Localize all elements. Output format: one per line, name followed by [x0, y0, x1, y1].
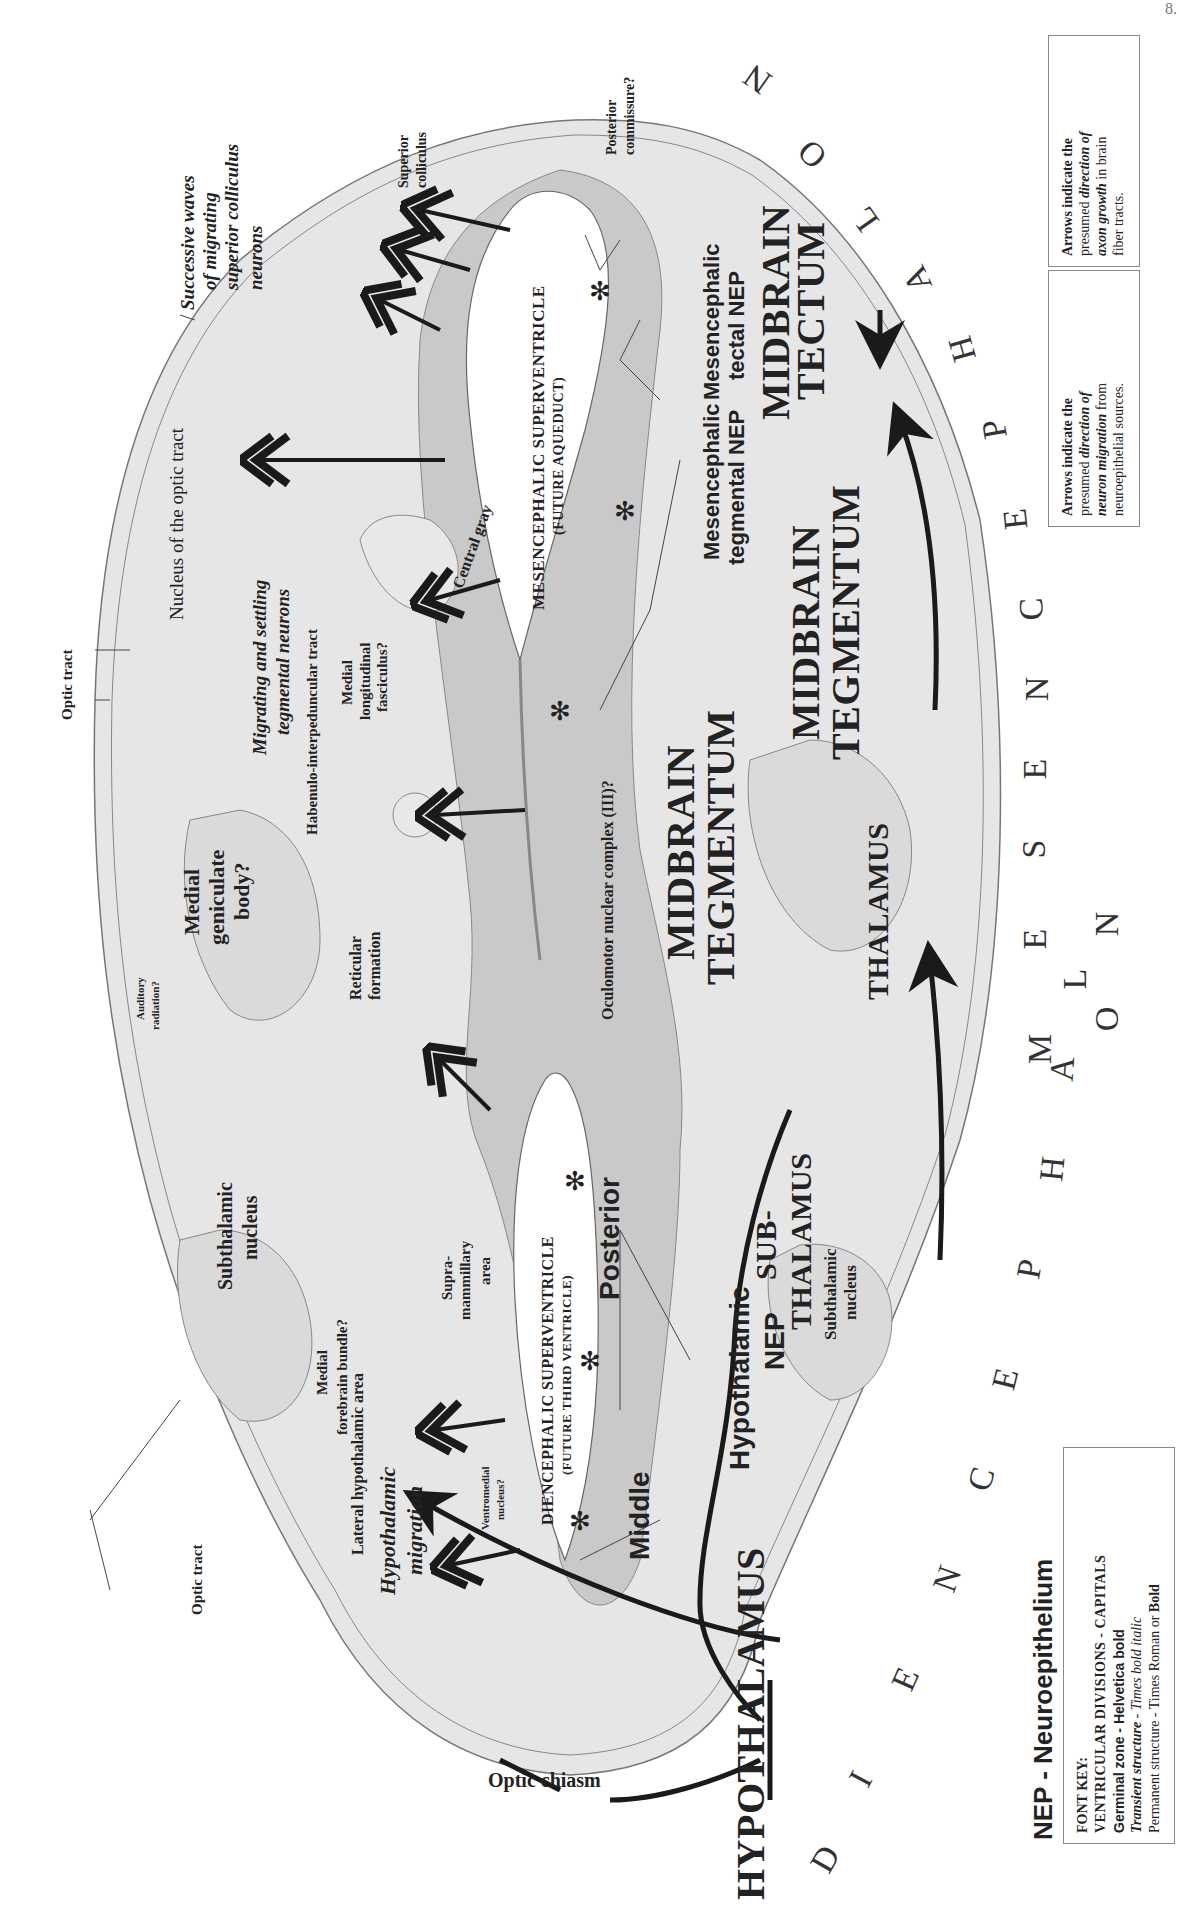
svg-text:✻: ✻: [569, 1507, 591, 1536]
label-sc-waves-1: Successive waves: [178, 175, 198, 310]
label-auditory-2: radiation?: [150, 981, 162, 1030]
label-supramammillary-3: area: [478, 1257, 494, 1285]
svg-text:✻: ✻: [564, 1167, 586, 1196]
label-optic-chiasm: Optic chiasm: [488, 1770, 601, 1791]
label-mfb-1: Medial: [315, 1350, 331, 1395]
label-medial-geniculate-2: geniculate: [205, 850, 228, 945]
label-mes-tegmental-nep-2: tegmental NEP: [725, 410, 748, 565]
label-mlf-3: fasciculus?: [375, 642, 391, 712]
label-lateral-hypothalamic-area: Lateral hypothalamic area: [350, 1373, 367, 1555]
brain-section-diagram: 8.: [0, 0, 1179, 1905]
label-sc-waves-3: superior colliculus: [222, 144, 242, 290]
label-posterior-commissure-1: Posterior: [605, 100, 620, 155]
label-mesencephalic-superventricle: MESENCEPHALIC SUPERVENTRICLE: [530, 285, 548, 610]
label-mes-tectal-nep-1: Mesencephalic: [700, 243, 723, 400]
label-midbrain-tectum-2: TECTUM: [790, 221, 832, 400]
label-mlf-1: Medial: [340, 660, 356, 705]
label-midbrain-tegmentum-b1: MIDBRAIN: [785, 525, 827, 740]
svg-text:✻: ✻: [614, 497, 636, 526]
label-reticular-1: Reticular: [348, 936, 365, 1000]
label-migrating-tegmental-2: tegmental neurons: [273, 589, 293, 735]
svg-text:✻: ✻: [589, 277, 611, 306]
label-subthalamic-top-1: Subthalamic: [215, 1182, 236, 1290]
label-midbrain-tegmentum-a1: MIDBRAIN: [660, 745, 702, 960]
label-mes-tectal-nep-2: tectal NEP: [725, 271, 748, 380]
nep-definition: NEP - Neuroepithelium: [1030, 1559, 1057, 1840]
label-superior-colliculus-2: colliculus: [415, 132, 430, 188]
label-supramammillary-2: mammillary: [458, 1241, 474, 1320]
svg-text:✻: ✻: [579, 1347, 601, 1376]
label-migrating-tegmental-1: Migrating and settling: [250, 580, 270, 755]
label-nucleus-optic-tract: Nucleus of the optic tract: [167, 428, 187, 620]
label-mes-tegmental-nep-1: Mesencephalic: [700, 403, 723, 560]
label-mlf-2: longitudinal: [358, 642, 374, 720]
label-oculomotor-complex: Oculomotor nuclear complex (III)?: [600, 780, 617, 1020]
label-auditory-1: Auditory: [135, 977, 147, 1020]
label-subthalamic-bottom-2: nucleus: [842, 1265, 860, 1320]
label-posterior-commissure-2: commissure?: [623, 77, 638, 155]
label-habenulo-interpeduncular: Habenulo-interpeduncular tract: [305, 629, 321, 835]
label-subthalamic-bottom-1: Subthalamic: [822, 1248, 840, 1340]
label-diencephalic-superventricle: DIENCEPHALIC SUPERVENTRICLE: [540, 1236, 557, 1525]
font-key-box: FONT KEY: VENTRICULAR DIVISIONS - CAPITA…: [1063, 1447, 1175, 1844]
label-future-aqueduct: (FUTURE AQUEDUCT): [552, 377, 567, 535]
label-hypothalamic-nep-2: NEP: [760, 1312, 789, 1370]
legend-neuron-migration: Arrows indicate the presumed direction o…: [1048, 270, 1140, 527]
label-future-third-ventricle: (FUTURE THIRD VENTRICLE): [560, 1275, 574, 1475]
label-subthalamic-top-2: nucleus: [240, 1196, 261, 1260]
label-hypothalamic-nep-1: Hypothalamic: [725, 1286, 754, 1470]
label-medial-geniculate-1: Medial: [180, 869, 203, 935]
label-middle-nep: Middle: [625, 1471, 654, 1560]
label-optic-tract-bottom: Optic tract: [190, 1545, 206, 1615]
label-hypothalamus: HYPOTHALAMUS: [730, 1547, 772, 1900]
label-hypothalamic-migration-1: Hypothalamic: [376, 1467, 399, 1595]
label-posterior-nep: Posterior: [595, 1177, 624, 1300]
label-midbrain-tegmentum-a2: TEGMENTUM: [700, 709, 742, 985]
label-superior-colliculus-1: Superior: [397, 135, 412, 188]
label-medial-geniculate-3: body?: [230, 863, 253, 920]
label-optic-tract-top: Optic tract: [60, 650, 76, 720]
label-thalamus: THALAMUS: [862, 823, 894, 1000]
label-sc-waves-2: of migrating: [200, 192, 220, 290]
label-sc-waves-4: neurons: [246, 226, 266, 290]
legend-axon-growth: Arrows indicate the presumed direction o…: [1048, 35, 1140, 267]
label-hypothalamic-migration-2: migration: [403, 1486, 426, 1575]
label-reticular-2: formation: [367, 932, 384, 1000]
label-subthalamus-2: THALAMUS: [785, 1153, 817, 1330]
svg-text:✻: ✻: [549, 697, 571, 726]
label-ventromedial-2: nucleus?: [495, 1479, 507, 1520]
label-supramammillary-1: Supra-: [440, 1256, 456, 1300]
label-ventromedial-1: Ventromedial: [480, 1466, 492, 1530]
label-midbrain-tegmentum-b2: TEGMENTUM: [825, 484, 867, 760]
label-subthalamus-1: SUB-: [750, 1210, 782, 1280]
